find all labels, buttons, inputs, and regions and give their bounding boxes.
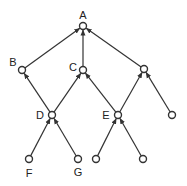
node-rl <box>169 112 176 119</box>
node-d <box>49 112 56 119</box>
edge-ER-to-E <box>120 118 141 155</box>
node-label-e: E <box>102 110 109 121</box>
edge-D-to-C <box>54 73 81 112</box>
node-f <box>26 156 33 163</box>
edges-group <box>24 28 170 156</box>
nodes-group <box>19 23 176 163</box>
node-label-g: G <box>74 167 83 178</box>
edge-R-to-A <box>86 28 141 67</box>
edge-RL-to-R <box>146 72 170 112</box>
node-g <box>75 156 82 163</box>
node-er <box>140 156 147 163</box>
node-label-d: D <box>36 110 44 121</box>
node-e <box>115 112 122 119</box>
node-label-f: F <box>26 168 33 179</box>
edge-F-to-D <box>31 119 51 156</box>
edge-D-to-B <box>24 73 50 112</box>
node-r <box>141 66 148 73</box>
edge-E-to-R <box>120 72 142 111</box>
node-b <box>19 67 26 74</box>
edge-G-to-D <box>54 118 76 156</box>
node-label-b: B <box>9 57 16 68</box>
graph-canvas <box>0 0 187 186</box>
node-el <box>93 156 100 163</box>
node-a <box>80 23 87 30</box>
edge-E-to-C <box>85 73 115 112</box>
node-c <box>80 67 87 74</box>
edge-EL-to-E <box>98 119 117 156</box>
node-label-c: C <box>69 62 77 73</box>
node-label-a: A <box>79 10 86 21</box>
